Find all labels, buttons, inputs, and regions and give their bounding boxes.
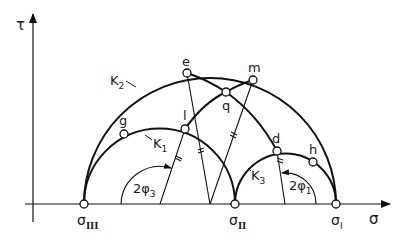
point-sigma3 xyxy=(80,200,88,208)
point-sigma2 xyxy=(231,200,239,208)
tau-axis-label: τ xyxy=(16,16,25,34)
line-center-k2-to-e xyxy=(187,73,210,204)
label-h: h xyxy=(309,142,317,157)
k2-leader xyxy=(126,81,136,87)
k1-leader xyxy=(145,135,152,140)
label-l: l xyxy=(183,108,187,123)
point-e xyxy=(183,69,191,77)
label-sigma2: σII xyxy=(229,212,246,231)
line-center-k2-to-m xyxy=(210,80,253,204)
diagram-canvas: τ σ e m q g l d h K2 K1 K3 2φ3 2φ1 σIII … xyxy=(0,0,403,242)
tick-mark xyxy=(277,161,283,163)
label-sigma3: σIII xyxy=(77,212,99,231)
point-d xyxy=(273,147,281,155)
point-m xyxy=(249,76,257,84)
point-h xyxy=(309,158,317,166)
label-m: m xyxy=(248,60,261,75)
label-e: e xyxy=(182,54,190,69)
label-sigma1: σI xyxy=(331,212,343,231)
mohr-circle-diagram: τ σ e m q g l d h K2 K1 K3 2φ3 2φ1 σIII … xyxy=(0,0,403,242)
label-g: g xyxy=(119,113,127,128)
label-k3: K3 xyxy=(251,168,265,186)
label-q: q xyxy=(222,98,230,113)
label-k1: K1 xyxy=(153,136,167,154)
label-phi1: 2φ1 xyxy=(289,178,312,196)
sigma-axis-label: σ xyxy=(369,210,379,228)
point-l xyxy=(181,125,189,133)
point-g xyxy=(120,130,128,138)
label-phi3: 2φ3 xyxy=(133,181,156,199)
point-q xyxy=(222,88,230,96)
label-k2: K2 xyxy=(110,73,124,91)
point-sigma1 xyxy=(332,200,340,208)
label-d: d xyxy=(272,131,280,146)
